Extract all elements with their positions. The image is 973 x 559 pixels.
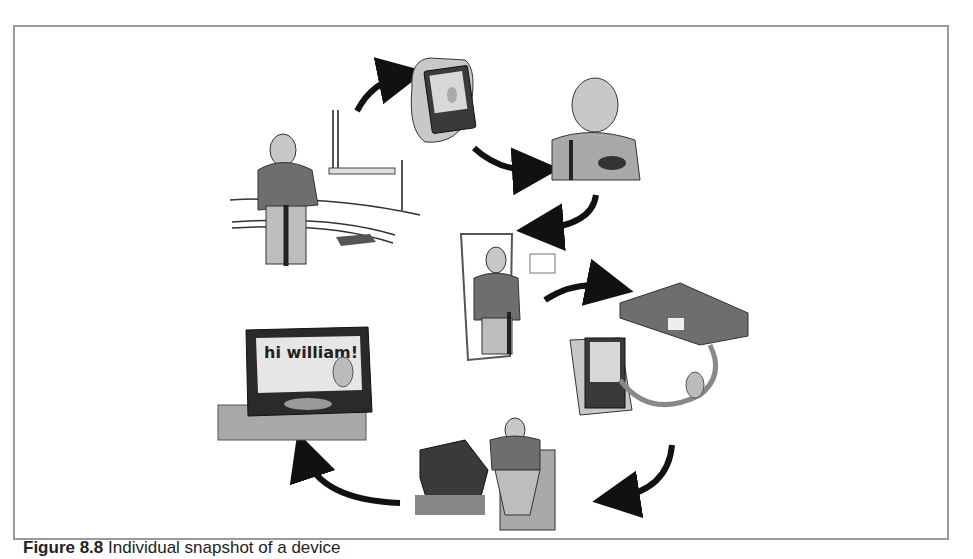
figure-caption: Figure 8.8 Individual snapshot of a devi…	[23, 538, 341, 558]
floor-grate-icon	[336, 234, 376, 246]
figure-caption-label: Figure 8.8	[23, 538, 103, 557]
flow-arrow-4	[545, 285, 610, 300]
figure-caption-text: Individual snapshot of a device	[108, 538, 341, 557]
flow-arrow-5	[616, 445, 672, 498]
scene-walking-man	[230, 110, 420, 266]
scene-handheld-device	[411, 58, 476, 142]
flow-arrow-3	[540, 195, 596, 229]
cable-icon	[620, 345, 716, 405]
storyboard-illustration: hi william!	[0, 0, 973, 559]
character-icon	[686, 372, 704, 398]
bowl-icon	[598, 156, 626, 170]
flow-arrow-2	[474, 148, 536, 170]
scene-thinking-man	[552, 78, 640, 180]
character-icon	[333, 357, 353, 387]
scene-doorway-man	[461, 234, 555, 360]
scene-set-top-box	[570, 283, 748, 415]
scene-tv-greeting: hi william!	[218, 327, 372, 440]
wall-note-icon	[530, 254, 555, 273]
flow-arrow-1	[357, 76, 402, 111]
scene-armchair-viewer	[415, 418, 555, 530]
flow-arrow-6	[305, 455, 400, 503]
character-icon	[447, 87, 457, 103]
